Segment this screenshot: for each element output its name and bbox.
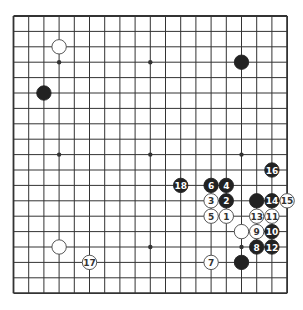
black-stone: 2 [219, 194, 233, 208]
black-stone: 6 [204, 178, 218, 192]
move-number: 6 [208, 181, 214, 191]
move-number: 2 [223, 196, 229, 206]
white-stone: 11 [265, 209, 279, 223]
black-stone: 8 [250, 240, 264, 254]
move-number: 14 [266, 196, 279, 206]
star-point [57, 60, 61, 64]
move-number: 1 [223, 212, 229, 222]
move-number: 4 [223, 181, 229, 191]
white-stone: 17 [82, 255, 96, 269]
black-stone: 10 [265, 224, 279, 238]
black-stone [37, 86, 51, 100]
white-stone: 7 [204, 255, 218, 269]
black-stone [234, 255, 248, 269]
move-number: 10 [266, 227, 279, 237]
white-stone [52, 40, 66, 54]
move-number: 3 [208, 196, 214, 206]
star-point [239, 152, 243, 156]
move-number: 12 [266, 243, 279, 253]
move-number: 18 [174, 181, 187, 191]
white-stone: 9 [250, 224, 264, 238]
star-point [148, 152, 152, 156]
stone-circle [52, 40, 66, 54]
go-board: 161864321415511311910812717 [0, 0, 303, 310]
white-stone [234, 224, 248, 238]
stone-circle [234, 255, 248, 269]
black-stone: 16 [265, 163, 279, 177]
stone-circle [250, 194, 264, 208]
move-number: 13 [250, 212, 263, 222]
white-stone: 5 [204, 209, 218, 223]
black-stone [234, 55, 248, 69]
black-stone: 12 [265, 240, 279, 254]
white-stone: 1 [219, 209, 233, 223]
star-point [239, 245, 243, 249]
stone-circle [234, 55, 248, 69]
move-number: 8 [254, 243, 260, 253]
stone-circle [37, 86, 51, 100]
move-number: 9 [254, 227, 260, 237]
move-number: 11 [266, 212, 279, 222]
black-stone: 4 [219, 178, 233, 192]
star-point [57, 152, 61, 156]
star-point [148, 245, 152, 249]
move-number: 16 [266, 166, 279, 176]
white-stone: 15 [280, 194, 294, 208]
stone-circle [234, 224, 248, 238]
black-stone: 18 [174, 178, 188, 192]
move-number: 17 [83, 258, 96, 268]
move-number: 5 [208, 212, 214, 222]
stone-circle [52, 240, 66, 254]
star-point [148, 60, 152, 64]
move-number: 15 [281, 196, 294, 206]
black-stone [250, 194, 264, 208]
white-stone: 3 [204, 194, 218, 208]
white-stone [52, 240, 66, 254]
move-number: 7 [208, 258, 214, 268]
white-stone: 13 [250, 209, 264, 223]
black-stone: 14 [265, 194, 279, 208]
